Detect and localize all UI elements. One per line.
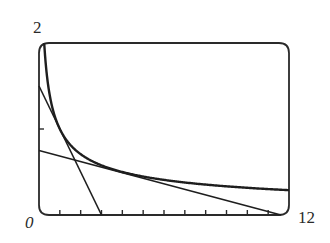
curve-series <box>44 43 289 190</box>
origin-label: 0 <box>25 214 34 231</box>
tangent-line-steep <box>39 86 102 215</box>
y-max-label: 2 <box>33 19 42 36</box>
x-max-label: 12 <box>298 209 315 226</box>
tangent-line-shallow <box>39 151 281 216</box>
chart-plot <box>0 0 330 243</box>
